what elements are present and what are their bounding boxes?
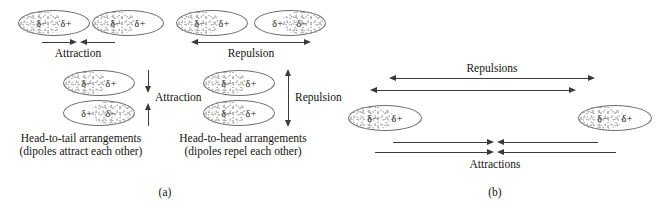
attraction-arrowhead-upper-right <box>497 139 504 145</box>
dipole-head-to-tail-horizontal-left: δ− δ+ <box>18 10 90 36</box>
charge-label-negative: δ− <box>110 18 121 29</box>
dipole-interactions-figure: δ− δ+ δ− δ+ Attraction δ− δ+ <box>0 0 659 208</box>
attraction-arrow-shaft-lower-right <box>502 152 616 153</box>
dipole-head-to-head-vertical-bottom: δ− δ+ <box>203 100 275 126</box>
attraction-arrow-shaft-bottom <box>148 108 149 126</box>
repulsion-arrowhead-upper-left <box>389 75 396 81</box>
charge-label-negative: δ− <box>36 18 47 29</box>
attraction-arrowhead-left <box>80 39 87 45</box>
charge-label-positive: δ+ <box>135 18 146 29</box>
charge-label-negative: δ− <box>221 78 232 89</box>
repulsion-arrowhead-lower-left <box>370 87 377 93</box>
dipole-panel-b-left: δ− δ+ <box>348 105 422 131</box>
repulsion-arrowhead-lower-right <box>569 87 576 93</box>
dipole-panel-b-right: δ− δ+ <box>578 105 652 131</box>
charge-label-positive: δ+ <box>622 113 633 124</box>
attraction-arrowhead-upper-left <box>487 139 494 145</box>
attraction-arrow-shaft-left <box>42 42 72 43</box>
attraction-arrow-shaft-right <box>85 42 115 43</box>
attraction-arrow-shaft-upper-left <box>393 142 489 143</box>
dipole-head-to-head-vertical-top: δ− δ+ <box>203 70 275 96</box>
charge-label-positive: δ+ <box>246 78 257 89</box>
attraction-arrowhead-lower-right <box>497 149 504 155</box>
attraction-arrowhead-down <box>145 86 151 93</box>
panel-b: Repulsions δ− δ+ δ− δ+ <box>330 0 659 208</box>
repulsion-label-horizontal: Repulsion <box>228 47 275 59</box>
dipole-head-to-head-horizontal-right: δ+ δ− <box>254 10 326 36</box>
charge-label-negative: δ− <box>221 108 232 119</box>
charge-label-positive: δ+ <box>246 108 257 119</box>
caption-head-to-head-line1: Head-to-head arrangements <box>179 132 306 145</box>
repulsion-arrowhead-down <box>285 120 291 127</box>
charge-label-positive: δ+ <box>61 18 72 29</box>
charge-label-positive: δ+ <box>106 78 117 89</box>
attraction-arrow-shaft-upper-right <box>502 142 598 143</box>
dipole-head-to-tail-vertical-bottom: δ+ δ− <box>63 100 135 126</box>
attraction-arrowhead-up <box>145 103 151 110</box>
attraction-arrow-shaft-lower-left <box>375 152 489 153</box>
charge-label-positive: δ+ <box>219 18 230 29</box>
charge-label-negative: δ− <box>106 108 117 119</box>
attraction-arrowhead-right <box>70 39 77 45</box>
caption-head-to-head-line2: (dipoles repel each other) <box>179 145 306 158</box>
panel-a-label: (a) <box>159 186 172 198</box>
repulsion-arrow-shaft-upper <box>394 78 590 79</box>
caption-head-to-head: Head-to-head arrangements (dipoles repel… <box>179 132 306 158</box>
repulsion-arrow-shaft-vertical <box>288 74 289 122</box>
caption-head-to-tail-line1: Head-to-tail arrangements <box>20 132 143 145</box>
repulsion-arrow-shaft-horizontal <box>196 42 306 43</box>
dipole-head-to-tail-horizontal-right: δ− δ+ <box>92 10 164 36</box>
attractions-label: Attractions <box>469 158 520 170</box>
caption-head-to-tail: Head-to-tail arrangements (dipoles attra… <box>20 132 143 158</box>
dipole-head-to-head-horizontal-left: δ− δ+ <box>176 10 248 36</box>
panel-a: δ− δ+ δ− δ+ Attraction δ− δ+ <box>0 0 330 208</box>
attraction-label-vertical: Attraction <box>155 91 202 103</box>
charge-label-negative: δ− <box>597 113 608 124</box>
repulsion-arrowhead-up <box>285 69 291 76</box>
repulsions-label: Repulsions <box>466 62 517 74</box>
charge-label-negative: δ− <box>297 18 308 29</box>
charge-label-negative: δ− <box>81 78 92 89</box>
attraction-label-horizontal: Attraction <box>55 47 102 59</box>
charge-label-positive: δ+ <box>392 113 403 124</box>
caption-head-to-tail-line2: (dipoles attract each other) <box>20 145 143 158</box>
panel-b-label: (b) <box>488 186 501 198</box>
attraction-arrowhead-lower-left <box>487 149 494 155</box>
repulsion-arrow-shaft-lower <box>375 90 571 91</box>
repulsion-arrowhead-right <box>304 39 311 45</box>
repulsion-arrowhead-left <box>191 39 198 45</box>
charge-label-negative: δ− <box>367 113 378 124</box>
dipole-head-to-tail-vertical-top: δ− δ+ <box>63 70 135 96</box>
charge-label-positive: δ+ <box>272 18 283 29</box>
charge-label-positive: δ+ <box>81 108 92 119</box>
repulsion-arrowhead-upper-right <box>588 75 595 81</box>
charge-label-negative: δ− <box>194 18 205 29</box>
